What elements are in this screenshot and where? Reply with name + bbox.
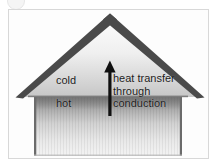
diagram-canvas bbox=[0, 0, 216, 167]
caption-line-3: conduction bbox=[113, 97, 175, 110]
arrow-shaft bbox=[108, 68, 111, 116]
label-hot: hot bbox=[56, 97, 71, 109]
caption-heat-transfer: heat transfer through conduction bbox=[113, 72, 175, 110]
caption-line-2: through bbox=[113, 85, 175, 98]
caption-line-1: heat transfer bbox=[113, 72, 175, 85]
label-cold: cold bbox=[56, 74, 76, 86]
heat-conduction-figure: cold hot heat transfer through conductio… bbox=[0, 0, 216, 167]
wall-left-edge bbox=[34, 97, 36, 156]
wall-right-edge bbox=[180, 97, 182, 156]
floor-line bbox=[34, 155, 182, 156]
